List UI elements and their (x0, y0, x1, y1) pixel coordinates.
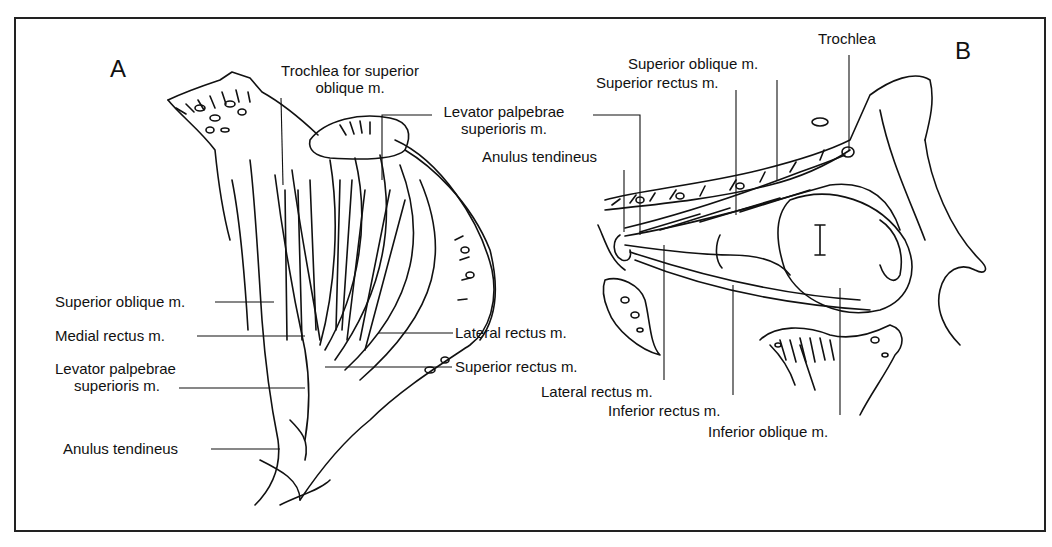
label-a-levator-palpebrae: Levator palpebrae superioris m. (434, 103, 574, 137)
panel-label-a: A (110, 55, 126, 83)
label-b-inferior-oblique: Inferior oblique m. (708, 423, 828, 440)
panel-b-drawing (598, 76, 985, 415)
label-b-lateral-rectus: Lateral rectus m. (541, 383, 653, 400)
panel-label-b: B (955, 37, 971, 65)
label-a-anulus-tendineus: Anulus tendineus (63, 440, 178, 457)
label-b-inferior-rectus: Inferior rectus m. (608, 402, 721, 419)
label-b-trochlea: Trochlea (818, 30, 876, 47)
label-a-medial-rectus: Medial rectus m. (55, 327, 165, 344)
label-a-superior-rectus: Superior rectus m. (455, 358, 578, 375)
label-a-lateral-rectus: Lateral rectus m. (455, 324, 567, 341)
label-b-superior-rectus: Superior rectus m. (596, 74, 719, 91)
label-a-levator-palpebrae-lower: Levator palpebrae superioris m. (55, 360, 176, 394)
label-a-superior-oblique: Superior oblique m. (55, 293, 185, 310)
eye-muscles-illustration (0, 0, 1052, 547)
label-b-superior-oblique: Superior oblique m. (628, 55, 758, 72)
label-a-trochlea: Trochlea for superior oblique m. (270, 62, 430, 96)
label-b-anulus-tendineus: Anulus tendineus (482, 148, 597, 165)
